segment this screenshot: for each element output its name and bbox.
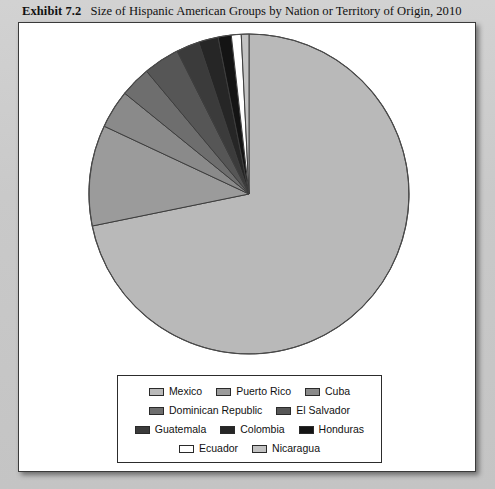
legend-item[interactable]: Ecuador	[179, 443, 238, 454]
legend-item[interactable]: Nicaragua	[252, 443, 320, 454]
legend-row: GuatemalaColombiaHonduras	[118, 420, 381, 439]
legend-item[interactable]: Cuba	[305, 386, 350, 397]
exhibit-number: Exhibit 7.2	[22, 4, 81, 18]
legend-item-label: Guatemala	[155, 424, 206, 435]
legend-color-swatch	[305, 388, 320, 396]
legend-item-label: Cuba	[325, 386, 350, 397]
legend-row: MexicoPuerto RicoCuba	[118, 382, 381, 401]
legend-row: Dominican RepublicEl Salvador	[118, 401, 381, 420]
chart-legend: MexicoPuerto RicoCubaDominican RepublicE…	[117, 375, 382, 463]
legend-color-swatch	[179, 445, 194, 453]
pie-slice-group	[89, 34, 409, 354]
legend-item[interactable]: El Salvador	[276, 405, 350, 416]
legend-item[interactable]: Colombia	[220, 424, 284, 435]
legend-color-swatch	[252, 445, 267, 453]
figure-panel: MexicoPuerto RicoCubaDominican RepublicE…	[18, 22, 476, 472]
legend-color-swatch	[276, 407, 291, 415]
legend-item-label: Honduras	[319, 424, 365, 435]
legend-color-swatch	[299, 426, 314, 434]
legend-color-swatch	[220, 426, 235, 434]
legend-item-label: Dominican Republic	[169, 405, 262, 416]
legend-item[interactable]: Puerto Rico	[216, 386, 291, 397]
pie-chart-svg	[19, 23, 477, 368]
exhibit-title: Size of Hispanic American Groups by Nati…	[90, 4, 461, 18]
legend-item-label: El Salvador	[296, 405, 350, 416]
legend-item[interactable]: Guatemala	[135, 424, 206, 435]
legend-item-label: Mexico	[169, 386, 202, 397]
legend-item-label: Nicaragua	[272, 443, 320, 454]
legend-color-swatch	[149, 407, 164, 415]
legend-item-label: Colombia	[240, 424, 284, 435]
legend-item-label: Puerto Rico	[236, 386, 291, 397]
pie-chart	[19, 23, 477, 368]
legend-color-swatch	[216, 388, 231, 396]
legend-color-swatch	[149, 388, 164, 396]
exhibit-caption: Exhibit 7.2Size of Hispanic American Gro…	[22, 2, 482, 22]
legend-row: EcuadorNicaragua	[118, 439, 381, 458]
legend-item[interactable]: Honduras	[299, 424, 365, 435]
legend-color-swatch	[135, 426, 150, 434]
legend-item[interactable]: Mexico	[149, 386, 202, 397]
legend-item[interactable]: Dominican Republic	[149, 405, 262, 416]
legend-item-label: Ecuador	[199, 443, 238, 454]
